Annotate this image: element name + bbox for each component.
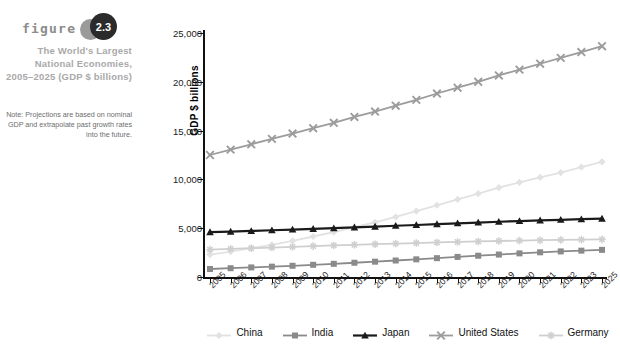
figure-word: figure [22, 21, 76, 36]
caption-block: figure 2.3 The World's Largest National … [0, 0, 140, 348]
data-point-asterisk [413, 239, 421, 247]
series-india [207, 247, 605, 272]
data-point-square [434, 255, 440, 261]
data-point-diamond [537, 174, 544, 181]
data-point-asterisk [474, 238, 482, 246]
legend-label: China [236, 327, 262, 338]
legend-marker-asterisk-icon [539, 327, 563, 338]
data-point-square [537, 249, 543, 255]
legend-marker-triangle-icon [353, 327, 377, 338]
data-point-asterisk [309, 242, 317, 250]
legend-item-india[interactable]: India [283, 327, 334, 338]
legend-marker-square-icon [283, 327, 307, 338]
data-point-asterisk [454, 238, 462, 246]
data-point-square [248, 264, 254, 270]
data-point-asterisk [578, 236, 586, 244]
chart-legend: ChinaIndiaJapanUnited StatesGermany [203, 322, 613, 342]
legend-label: Germany [568, 327, 609, 338]
data-point-square [578, 248, 584, 254]
data-point-square [455, 254, 461, 260]
series-japan [206, 215, 606, 235]
data-point-diamond [310, 233, 317, 240]
data-point-diamond [392, 213, 399, 220]
data-point-diamond [495, 184, 502, 191]
legend-marker-diamond-icon [207, 327, 231, 338]
data-point-square [292, 332, 298, 338]
data-point-diamond [475, 190, 482, 197]
data-point-asterisk [536, 236, 544, 244]
data-point-asterisk [206, 246, 214, 254]
data-point-asterisk [330, 242, 338, 250]
data-point-asterisk [433, 239, 441, 247]
data-point-asterisk [247, 244, 255, 252]
series-united-states [206, 42, 606, 158]
data-point-asterisk [289, 243, 297, 251]
data-point-asterisk [557, 236, 565, 244]
figure-note: Note: Projections are based on nominal G… [4, 110, 132, 140]
figure-title: The World's Largest National Economies, … [6, 44, 132, 83]
data-point-diamond [557, 169, 564, 176]
data-point-diamond [413, 208, 420, 215]
legend-item-germany[interactable]: Germany [539, 327, 609, 338]
data-point-asterisk [371, 240, 379, 248]
legend-item-china[interactable]: China [207, 327, 262, 338]
legend-item-united-states[interactable]: United States [429, 327, 518, 338]
data-point-asterisk [392, 240, 400, 248]
data-point-square [599, 247, 605, 253]
data-point-asterisk [495, 237, 503, 245]
data-point-square [372, 259, 378, 265]
data-point-diamond [516, 179, 523, 186]
data-point-square [393, 258, 399, 264]
data-point-square [351, 260, 357, 266]
data-point-diamond [433, 202, 440, 209]
data-point-diamond [216, 331, 223, 338]
data-point-square [269, 264, 275, 270]
data-point-square [290, 263, 296, 269]
series-germany [206, 236, 606, 254]
data-point-square [413, 256, 419, 262]
data-point-square [496, 252, 502, 258]
legend-label: United States [458, 327, 518, 338]
data-point-square [207, 266, 213, 272]
chart-area: GDP $ billions 05,00010,00015,00020,0002… [140, 0, 617, 348]
legend-label: Japan [382, 327, 409, 338]
figure-number: 2.3 [90, 13, 117, 40]
legend-item-japan[interactable]: Japan [353, 327, 409, 338]
data-point-asterisk [598, 236, 606, 244]
data-point-square [475, 253, 481, 259]
data-point-square [331, 261, 337, 267]
data-point-diamond [578, 164, 585, 171]
legend-marker-x-icon [429, 327, 453, 338]
data-point-diamond [598, 158, 605, 165]
data-point-asterisk [516, 237, 524, 245]
plot-lines [140, 0, 617, 348]
data-point-asterisk [547, 331, 555, 339]
legend-label: India [312, 327, 334, 338]
data-point-square [310, 262, 316, 268]
data-point-asterisk [351, 241, 359, 249]
data-point-diamond [454, 196, 461, 203]
data-point-square [516, 250, 522, 256]
data-point-square [558, 248, 564, 254]
figure-badge: figure 2.3 [0, 8, 132, 38]
data-point-square [228, 265, 234, 271]
